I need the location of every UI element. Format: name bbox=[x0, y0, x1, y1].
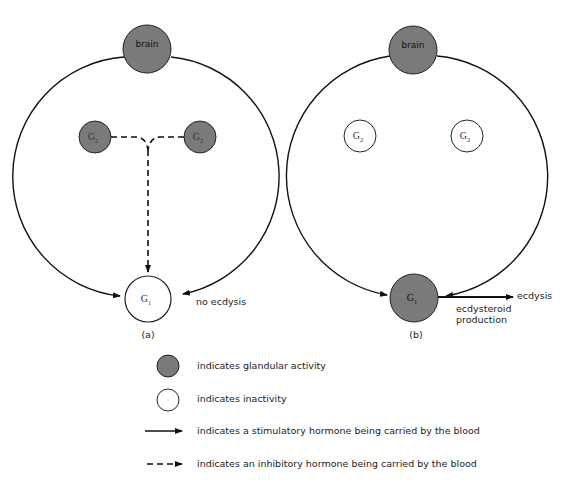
panel-b: brain G2 G2 G1 ecdysis ecdysteroid produ… bbox=[286, 26, 552, 340]
ecdysis-label: ecdysis bbox=[517, 290, 552, 301]
ecdysteroid-caption-line1: ecdysteroid bbox=[456, 303, 511, 314]
brain-label-a: brain bbox=[135, 39, 158, 49]
stimulatory-arrow-left bbox=[13, 57, 124, 296]
stimulatory-arrow-right bbox=[171, 57, 279, 294]
stimulatory-arrow-left bbox=[286, 56, 390, 295]
brain-node-b bbox=[389, 26, 437, 74]
legend-item-inactive: indicates inactivity bbox=[197, 393, 287, 404]
inhibitory-arrow-left-branch bbox=[111, 137, 148, 150]
brain-node-a bbox=[123, 25, 171, 73]
legend-open-circle-icon bbox=[157, 389, 179, 411]
panel-b-caption: (b) bbox=[409, 329, 422, 340]
diagram-canvas: brain G2 G2 G1 no ecdysis (a) brain G2 G… bbox=[0, 0, 572, 488]
brain-label-b: brain bbox=[401, 40, 424, 50]
legend-item-inhibitory: indicates an inhibitory hormone being ca… bbox=[197, 458, 477, 469]
panel-a: brain G2 G2 G1 no ecdysis (a) bbox=[13, 25, 279, 340]
no-ecdysis-label: no ecdysis bbox=[196, 296, 246, 307]
legend: indicates glandular activity indicates i… bbox=[145, 355, 480, 469]
legend-item-active: indicates glandular activity bbox=[197, 360, 326, 371]
legend-filled-circle-icon bbox=[157, 355, 179, 377]
ecdysteroid-caption-line2: production bbox=[456, 314, 507, 325]
legend-item-stimulatory: indicates a stimulatory hormone being ca… bbox=[197, 425, 480, 436]
stimulatory-arrow-right bbox=[437, 56, 548, 296]
inhibitory-arrow-right-branch bbox=[148, 137, 184, 150]
panel-a-caption: (a) bbox=[141, 329, 154, 340]
